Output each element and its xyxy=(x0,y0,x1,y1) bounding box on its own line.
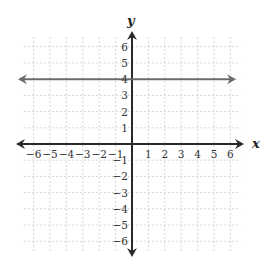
y-tick-label: −4 xyxy=(113,203,129,215)
y-tick-label: −3 xyxy=(113,187,128,199)
y-tick-label: 2 xyxy=(121,106,128,118)
x-tick-label: −6 xyxy=(26,148,42,160)
x-tick-label: 3 xyxy=(178,148,185,160)
y-axis-label: y xyxy=(126,13,136,28)
x-tick-label: 2 xyxy=(161,148,168,160)
y-tick-label: 4 xyxy=(121,73,128,85)
y-tick-label: −1 xyxy=(113,154,128,166)
y-tick-label: 5 xyxy=(121,57,128,69)
y-tick-label: 3 xyxy=(121,89,128,101)
x-tick-label: 6 xyxy=(227,148,234,160)
x-tick-label: −3 xyxy=(75,148,90,160)
y-tick-label: 6 xyxy=(121,41,128,53)
x-tick-label: −4 xyxy=(59,148,75,160)
y-tick-label: −5 xyxy=(113,219,128,231)
x-tick-label: −5 xyxy=(42,148,57,160)
y-tick-label: −2 xyxy=(113,170,128,182)
x-tick-label: −2 xyxy=(91,148,106,160)
x-axis-label: x xyxy=(251,136,260,151)
x-tick-label: 4 xyxy=(194,148,201,160)
x-tick-label: 1 xyxy=(145,148,152,160)
x-tick-label: 5 xyxy=(211,148,218,160)
coordinate-plane: −6−5−4−3−2−1123456654321−1−2−3−4−5−6 x y xyxy=(0,0,274,266)
y-tick-label: −6 xyxy=(113,235,129,247)
y-tick-label: 1 xyxy=(121,122,128,134)
axes xyxy=(16,31,244,257)
